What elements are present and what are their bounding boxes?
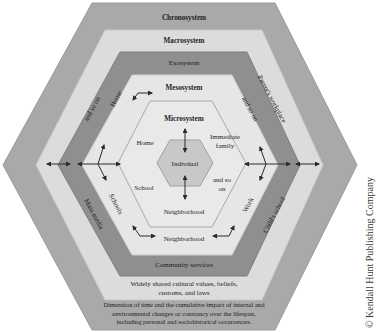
microsystem-and-so-on-2: on (219, 185, 227, 193)
microsystem-neighborhood: Neighborhood (164, 208, 205, 216)
macrosystem-description-1: Widely shared cultural values, beliefs, (130, 280, 237, 288)
chronosystem-description-2: environmental changes or constancy over … (112, 310, 256, 317)
macrosystem-title: Macrosystem (164, 37, 205, 45)
mesosystem-neighborhood: Neighborhood (164, 235, 205, 243)
copyright-notice: © Kendall Hunt Publishing Company (364, 168, 378, 328)
macrosystem-description-2: customs, and laws (158, 289, 209, 297)
individual-label: Indivdual (172, 160, 199, 168)
chronosystem-description-3: including personal and sociohistorical o… (117, 318, 252, 325)
chronosystem-description-1: Dimension of time and the cumulative imp… (104, 301, 266, 308)
mesosystem-title: Mesosystem (165, 84, 202, 92)
bronfenbrenner-ecological-systems-diagram: Chronosystem Macrosystem Exosystem Mesos… (0, 0, 390, 332)
exosystem-title: Exosystem (169, 59, 200, 67)
microsystem-home: Home (136, 139, 153, 147)
exosystem-community-services: Community services (155, 261, 213, 269)
microsystem-immediate-family-2: family (216, 142, 235, 150)
microsystem-and-so-on-1: and so (213, 176, 232, 184)
microsystem-title: Microsystem (164, 115, 203, 123)
chronosystem-title: Chronosystem (162, 14, 206, 22)
microsystem-school: School (134, 184, 154, 192)
microsystem-immediate-family-1: Immediate (210, 133, 240, 141)
